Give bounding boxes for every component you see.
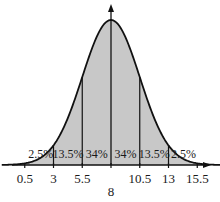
region-percent-label: 13.5%: [52, 147, 83, 161]
x-tick-label: 10.5: [128, 171, 151, 186]
x-tick-label: 0.5: [17, 171, 33, 186]
region-percent-label: 34%: [86, 147, 108, 161]
x-tick-label: 15.5: [186, 171, 209, 186]
y-axis-arrow-icon: [108, 4, 114, 12]
region-percent-label: 34%: [114, 147, 136, 161]
normal-distribution-chart: 0.535.5810.51315.5 2.5%13.5%34%34%13.5%2…: [0, 0, 220, 202]
x-tick-label: 13: [162, 171, 175, 186]
x-tick-label: 5.5: [74, 171, 90, 186]
x-tick-label: 3: [50, 171, 57, 186]
region-percent-label: 13.5%: [139, 147, 170, 161]
x-axis-arrow-icon: [203, 162, 211, 168]
x-tick-label: 8: [108, 184, 115, 199]
region-percent-label: 2.5%: [171, 147, 196, 161]
region-percent-label: 2.5%: [28, 147, 53, 161]
x-tick-labels: 0.535.5810.51315.5: [17, 171, 209, 199]
